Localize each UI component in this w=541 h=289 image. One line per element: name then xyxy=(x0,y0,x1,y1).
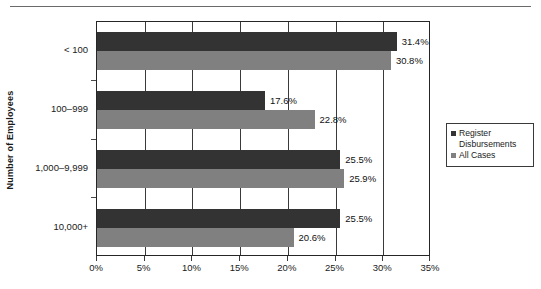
legend-swatch-icon xyxy=(451,153,456,158)
y-axis-category-label: 100–999 xyxy=(51,103,88,114)
x-axis-tick-label: 15% xyxy=(230,262,249,273)
bar-group: 25.5%25.9% xyxy=(97,150,429,188)
bar-value-label: 25.5% xyxy=(340,150,372,169)
legend-label: All Cases xyxy=(459,150,495,161)
y-axis-category-label: < 100 xyxy=(64,44,88,55)
bar xyxy=(97,51,391,70)
legend-label: Register Disbursements xyxy=(459,128,529,149)
bar xyxy=(97,169,344,188)
bar xyxy=(97,110,315,129)
x-axis-tick xyxy=(191,256,192,261)
y-axis-tick xyxy=(91,80,96,81)
x-axis-tick xyxy=(144,256,145,261)
x-axis-tick-label: 35% xyxy=(420,262,439,273)
x-axis-tick-label: 0% xyxy=(89,262,103,273)
x-axis-tick-label: 25% xyxy=(325,262,344,273)
y-axis-category-label: 10,000+ xyxy=(53,221,88,232)
x-axis-tick xyxy=(335,256,336,261)
x-axis-tick-label: 5% xyxy=(137,262,151,273)
y-axis-title: Number of Employees xyxy=(2,55,18,225)
x-axis-tick-label: 30% xyxy=(373,262,392,273)
bar-value-label: 17.6% xyxy=(265,91,297,110)
bar xyxy=(97,209,340,228)
header-rule xyxy=(10,6,531,7)
x-axis-tick xyxy=(429,256,430,261)
bar xyxy=(97,91,265,110)
y-axis-tick xyxy=(91,197,96,198)
bar-value-label: 25.9% xyxy=(344,169,376,188)
bar-value-label: 25.5% xyxy=(340,209,372,228)
bar xyxy=(97,150,340,169)
legend-entry: All Cases xyxy=(451,150,529,161)
legend-swatch-icon xyxy=(451,131,456,136)
bar xyxy=(97,32,397,51)
x-axis-tick xyxy=(382,256,383,261)
bar-group: 25.5%20.6% xyxy=(97,209,429,247)
y-axis-tick xyxy=(91,139,96,140)
bar-group: 17.6%22.8% xyxy=(97,91,429,129)
bar-value-label: 30.8% xyxy=(391,51,423,70)
x-axis-tick xyxy=(96,256,97,261)
bars-layer: 31.4%30.8%17.6%22.8%25.5%25.9%25.5%20.6% xyxy=(97,22,429,255)
bar-group: 31.4%30.8% xyxy=(97,32,429,70)
x-axis-labels: 0%5%10%15%20%25%30%35% xyxy=(96,262,430,278)
bar-value-label: 31.4% xyxy=(397,32,429,51)
bar xyxy=(97,228,294,247)
legend-entry: Register Disbursements xyxy=(451,128,529,149)
y-axis-title-text: Number of Employees xyxy=(5,91,15,190)
plot-area: 31.4%30.8%17.6%22.8%25.5%25.9%25.5%20.6% xyxy=(96,21,430,256)
bar-value-label: 22.8% xyxy=(315,110,347,129)
x-axis-tick xyxy=(239,256,240,261)
x-axis-tick-label: 10% xyxy=(182,262,201,273)
y-axis-category-label: 1,000–9,999 xyxy=(35,162,88,173)
bar-value-label: 20.6% xyxy=(294,228,326,247)
chart-legend: Register DisbursementsAll Cases xyxy=(446,123,534,167)
x-axis-tick xyxy=(287,256,288,261)
y-axis-category-labels: < 100100–9991,000–9,99910,000+ xyxy=(18,21,92,256)
x-axis-tick-label: 20% xyxy=(277,262,296,273)
